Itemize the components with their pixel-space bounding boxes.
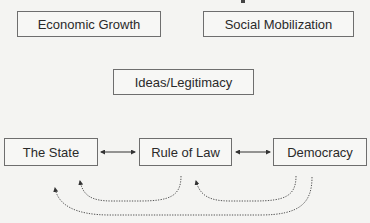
connections-layer [0, 0, 370, 223]
dotted-arrow-rule-to-state [80, 176, 181, 201]
dotted-arrow-democracy-to-state [55, 177, 312, 215]
dotted-arrow-democracy-to-rule [196, 176, 296, 201]
